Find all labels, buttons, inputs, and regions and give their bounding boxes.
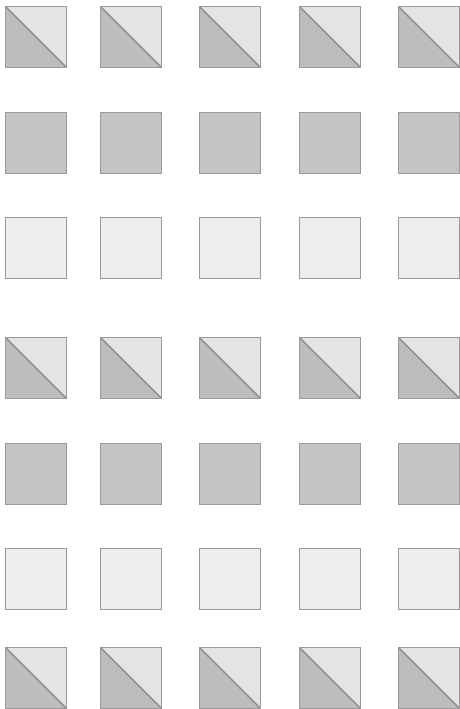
- diagonal-split-graphic: [200, 648, 260, 708]
- swatch-diagonal-split-r4c2: [100, 337, 162, 399]
- swatch-diagonal-split-r1c1: [5, 6, 67, 68]
- swatch-diagonal-split-r7c2: [100, 647, 162, 709]
- diagonal-split-graphic: [399, 648, 459, 708]
- solid-fill: [200, 549, 260, 609]
- solid-fill: [300, 218, 360, 278]
- solid-fill: [200, 113, 260, 173]
- solid-fill: [101, 113, 161, 173]
- swatch-diagonal-split-r4c4: [299, 337, 361, 399]
- swatch-solid-medium-r2c1: [5, 112, 67, 174]
- solid-fill: [300, 113, 360, 173]
- diagonal-split-graphic: [6, 7, 66, 67]
- solid-fill: [101, 218, 161, 278]
- swatch-solid-medium-r2c5: [398, 112, 460, 174]
- swatch-solid-light-r6c3: [199, 548, 261, 610]
- diagonal-split-graphic: [101, 7, 161, 67]
- solid-fill: [6, 549, 66, 609]
- solid-fill: [101, 549, 161, 609]
- swatch-solid-light-r3c2: [100, 217, 162, 279]
- swatch-diagonal-split-r4c1: [5, 337, 67, 399]
- swatch-solid-light-r3c1: [5, 217, 67, 279]
- swatch-diagonal-split-r1c3: [199, 6, 261, 68]
- diagonal-split-graphic: [101, 648, 161, 708]
- swatch-solid-medium-r2c2: [100, 112, 162, 174]
- swatch-solid-medium-r5c3: [199, 443, 261, 505]
- solid-fill: [101, 444, 161, 504]
- diagonal-split-graphic: [6, 338, 66, 398]
- swatch-solid-light-r3c5: [398, 217, 460, 279]
- diagonal-split-graphic: [300, 338, 360, 398]
- swatch-solid-light-r3c3: [199, 217, 261, 279]
- swatch-diagonal-split-r7c4: [299, 647, 361, 709]
- diagonal-split-graphic: [6, 648, 66, 708]
- solid-fill: [200, 444, 260, 504]
- swatch-diagonal-split-r7c3: [199, 647, 261, 709]
- swatch-solid-medium-r2c4: [299, 112, 361, 174]
- swatch-solid-medium-r5c4: [299, 443, 361, 505]
- swatch-diagonal-split-r4c3: [199, 337, 261, 399]
- solid-fill: [399, 549, 459, 609]
- swatch-diagonal-split-r7c5: [398, 647, 460, 709]
- swatch-solid-light-r6c2: [100, 548, 162, 610]
- solid-fill: [399, 444, 459, 504]
- diagonal-split-graphic: [399, 338, 459, 398]
- swatch-solid-medium-r2c3: [199, 112, 261, 174]
- swatch-solid-light-r3c4: [299, 217, 361, 279]
- solid-fill: [6, 113, 66, 173]
- swatch-diagonal-split-r1c5: [398, 6, 460, 68]
- diagonal-split-graphic: [101, 338, 161, 398]
- solid-fill: [300, 444, 360, 504]
- swatch-solid-medium-r5c2: [100, 443, 162, 505]
- diagonal-split-graphic: [399, 7, 459, 67]
- diagonal-split-graphic: [300, 648, 360, 708]
- swatch-diagonal-split-r4c5: [398, 337, 460, 399]
- diagonal-split-graphic: [200, 7, 260, 67]
- solid-fill: [399, 218, 459, 278]
- swatch-solid-light-r6c5: [398, 548, 460, 610]
- solid-fill: [6, 444, 66, 504]
- diagonal-split-graphic: [300, 7, 360, 67]
- solid-fill: [6, 218, 66, 278]
- swatch-solid-medium-r5c1: [5, 443, 67, 505]
- solid-fill: [300, 549, 360, 609]
- solid-fill: [200, 218, 260, 278]
- swatch-diagonal-split-r1c4: [299, 6, 361, 68]
- diagonal-split-graphic: [200, 338, 260, 398]
- swatch-solid-medium-r5c5: [398, 443, 460, 505]
- swatch-diagonal-split-r7c1: [5, 647, 67, 709]
- swatch-diagonal-split-r1c2: [100, 6, 162, 68]
- swatch-solid-light-r6c1: [5, 548, 67, 610]
- swatch-solid-light-r6c4: [299, 548, 361, 610]
- solid-fill: [399, 113, 459, 173]
